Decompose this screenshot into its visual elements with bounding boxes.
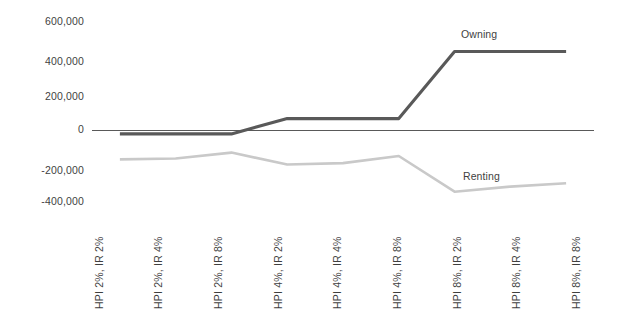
x-tick-label: HPI 8%, IR 2%	[452, 236, 463, 309]
x-tick-label: HPI 4%, IR 2%	[273, 236, 284, 309]
x-tick-label: HPI 8%, IR 8%	[571, 236, 582, 309]
x-tick-label: HPI 8%, IR 4%	[511, 236, 522, 309]
x-tick-label: HPI 4%, IR 4%	[332, 236, 343, 309]
x-tick-label: HPI 4%, IR 8%	[392, 236, 403, 309]
x-tick-label: HPI 2%, IR 8%	[213, 236, 224, 309]
x-tick-label: HPI 2%, IR 2%	[94, 236, 105, 309]
x-tick-label: HPI 2%, IR 4%	[153, 236, 164, 309]
